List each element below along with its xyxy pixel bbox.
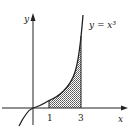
y-axis-arrow-icon (31, 13, 36, 21)
tick-label-1: 1 (47, 113, 53, 123)
x-axis-arrow-icon (121, 106, 128, 111)
tick-label-3: 3 (78, 113, 84, 123)
x-axis-label: x (118, 114, 123, 124)
curve-y-x3 (19, 15, 83, 126)
graph: y x 1 3 y = x³ (0, 0, 130, 128)
y-axis-label: y (23, 14, 30, 24)
curve-label: y = x³ (88, 20, 116, 30)
shaded-area (49, 36, 81, 108)
